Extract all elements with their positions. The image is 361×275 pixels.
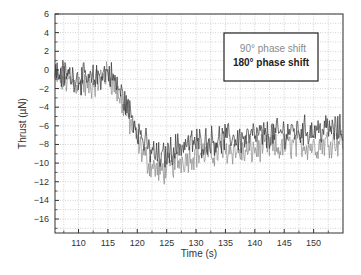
y-tick-label: −8 — [39, 139, 49, 149]
x-tick-label: 120 — [130, 238, 145, 248]
y-tick-label: 0 — [44, 65, 49, 75]
y-tick-label: −4 — [39, 102, 49, 112]
legend-entry-180: 180° phase shift — [233, 57, 310, 68]
x-tick-label: 140 — [247, 238, 262, 248]
x-tick-label: 110 — [71, 238, 85, 248]
y-tick-label: −10 — [34, 158, 49, 168]
thrust-chart: 110115120125130135140145150 6420−2−4−6−8… — [0, 0, 361, 275]
y-tick-label: −14 — [34, 195, 49, 205]
x-tick-label: 135 — [218, 238, 233, 248]
x-tick-labels: 110115120125130135140145150 — [71, 238, 321, 248]
y-tick-label: −2 — [39, 84, 49, 94]
y-tick-label: −12 — [34, 177, 49, 187]
x-tick-label: 125 — [159, 238, 174, 248]
y-tick-label: 2 — [44, 46, 49, 56]
y-tick-label: 4 — [44, 28, 49, 38]
y-tick-label: 6 — [44, 9, 49, 19]
x-tick-label: 130 — [189, 238, 204, 248]
x-tick-label: 115 — [101, 238, 115, 248]
y-tick-label: −16 — [34, 214, 49, 224]
x-tick-label: 150 — [306, 238, 321, 248]
legend-entry-90: 90° phase shift — [240, 43, 306, 54]
y-tick-label: −6 — [39, 121, 49, 131]
y-axis-title: Thrust (µN) — [17, 98, 28, 149]
x-tick-label: 145 — [277, 238, 292, 248]
legend: 90° phase shift 180° phase shift — [224, 33, 318, 81]
x-axis-title: Time (s) — [181, 248, 217, 259]
